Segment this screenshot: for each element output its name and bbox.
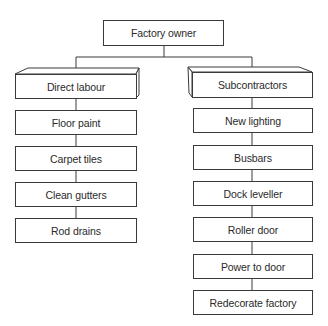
node-floor-paint: Floor paint [15,110,137,135]
node-label: Carpet tiles [50,153,102,165]
node-label: Clean gutters [45,189,106,201]
node-new-lighting: New lighting [193,108,313,133]
node-subcontractors: Subcontractors [192,72,313,98]
node-label: Subcontractors [218,79,287,91]
node-label: Factory owner [131,27,196,39]
node-label: New lighting [225,115,281,127]
node-dock-leveller: Dock leveller [193,181,313,206]
node-clean-gutters: Clean gutters [15,182,137,207]
node-label: Power to door [221,261,285,273]
node-busbars: Busbars [193,145,313,170]
node-direct-labour: Direct labour [15,74,137,99]
node-label: Redecorate factory [210,297,297,309]
node-redecorate-factory: Redecorate factory [193,290,313,315]
node-factory-owner: Factory owner [103,20,224,46]
node-label: Roller door [228,224,278,236]
node-label: Dock leveller [224,188,283,200]
node-label: Busbars [234,152,272,164]
node-power-to-door: Power to door [193,254,313,279]
node-carpet-tiles: Carpet tiles [15,146,137,171]
node-label: Rod drains [51,225,101,237]
node-label: Floor paint [52,117,101,129]
node-label: Direct labour [47,81,105,93]
node-roller-door: Roller door [193,217,313,242]
node-rod-drains: Rod drains [15,218,137,243]
